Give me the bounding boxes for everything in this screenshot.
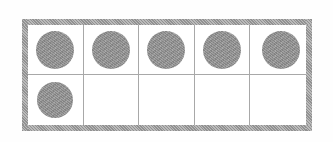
counter-icon	[262, 31, 300, 69]
ten-frame-cell-r2c4[interactable]	[195, 75, 251, 125]
ten-frame-cell-r1c3[interactable]	[139, 25, 195, 75]
ten-frame-cell-r1c1[interactable]	[28, 25, 84, 75]
figure-canvas	[0, 0, 333, 142]
ten-frame-cell-r2c1[interactable]	[28, 75, 84, 125]
ten-frame-cell-r2c3[interactable]	[139, 75, 195, 125]
ten-frame	[22, 19, 312, 131]
ten-frame-grid	[28, 25, 306, 125]
ten-frame-cell-r1c2[interactable]	[84, 25, 140, 75]
ten-frame-cell-r1c4[interactable]	[195, 25, 251, 75]
ten-frame-cell-r1c5[interactable]	[250, 25, 306, 75]
counter-icon	[203, 31, 241, 69]
counter-icon	[37, 82, 73, 118]
counter-icon	[147, 31, 185, 69]
counter-icon	[36, 31, 74, 69]
ten-frame-cell-r2c5[interactable]	[250, 75, 306, 125]
counter-icon	[92, 31, 130, 69]
ten-frame-cell-r2c2[interactable]	[84, 75, 140, 125]
